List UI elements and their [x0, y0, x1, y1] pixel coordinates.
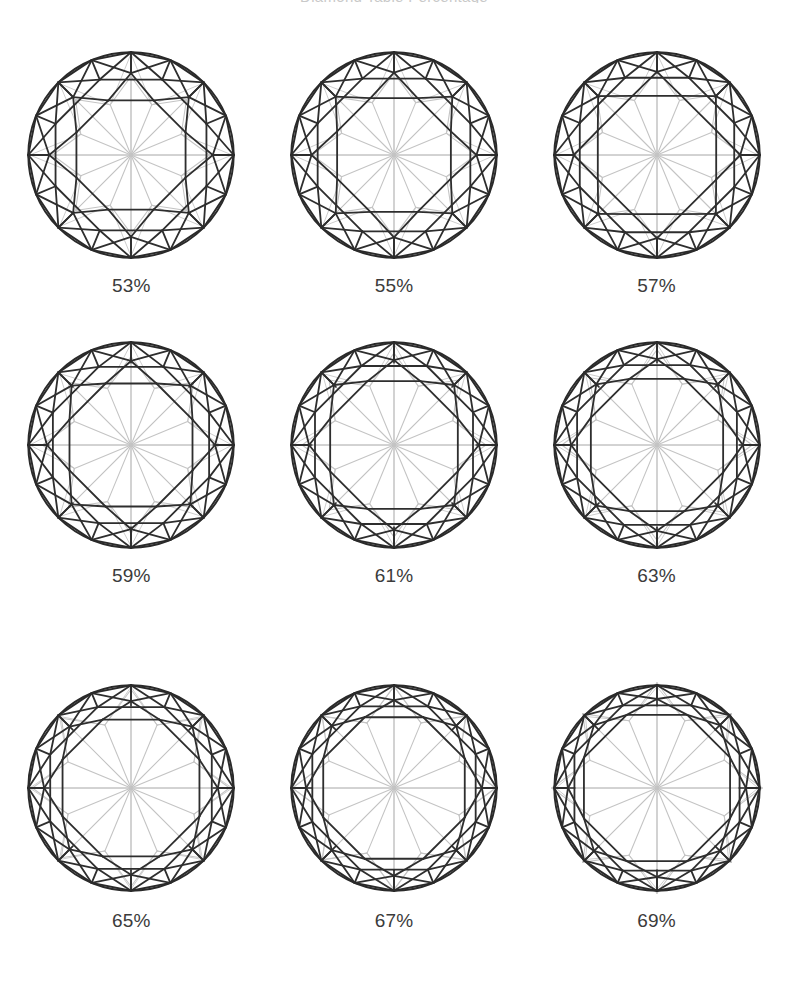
- diamond-label: 65%: [112, 911, 151, 930]
- figure-root: Diamond Table Percentage 53% 55% 57% 59%…: [0, 0, 788, 1005]
- diamond-label: 55%: [375, 276, 414, 295]
- diamond-diagram-57: [550, 48, 764, 262]
- diamond-label: 63%: [637, 566, 676, 585]
- diamond-label: 69%: [637, 911, 676, 930]
- diamond-label: 57%: [637, 276, 676, 295]
- diamond-label: 59%: [112, 566, 151, 585]
- diamond-cell[interactable]: 59%: [0, 330, 263, 675]
- diamond-cell[interactable]: 67%: [263, 675, 526, 1005]
- diamond-diagram-67: [287, 681, 501, 895]
- diamond-cell[interactable]: 63%: [525, 330, 788, 675]
- diamond-cell[interactable]: 65%: [0, 675, 263, 1005]
- diamond-diagram-61: [287, 338, 501, 552]
- diamond-diagram-65: [24, 681, 238, 895]
- diamond-diagram-69: [550, 681, 764, 895]
- diamond-cell[interactable]: 69%: [525, 675, 788, 1005]
- diamond-label: 53%: [112, 276, 151, 295]
- diamond-cell[interactable]: 53%: [0, 0, 263, 330]
- diamond-diagram-53: [24, 48, 238, 262]
- diamond-label: 67%: [375, 911, 414, 930]
- diamond-diagram-63: [550, 338, 764, 552]
- diamond-cell[interactable]: 57%: [525, 0, 788, 330]
- diamond-diagram-55: [287, 48, 501, 262]
- diamond-grid: 53% 55% 57% 59% 61% 63% 65%: [0, 0, 788, 1005]
- diamond-diagram-59: [24, 338, 238, 552]
- diamond-label: 61%: [375, 566, 414, 585]
- diamond-cell[interactable]: 61%: [263, 330, 526, 675]
- diamond-cell[interactable]: 55%: [263, 0, 526, 330]
